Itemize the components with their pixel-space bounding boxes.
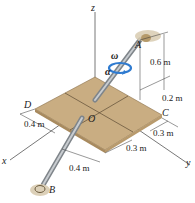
point-label-b: B bbox=[49, 184, 55, 195]
omega-label: ω bbox=[111, 50, 118, 61]
point-label-a: A bbox=[134, 39, 142, 50]
point-label-d: D bbox=[23, 99, 32, 110]
support-a-bearing-icon bbox=[141, 34, 151, 42]
dim-label-c-side: 0.3 m bbox=[153, 128, 174, 138]
diagram-canvas: z x y A B C D O ω α 0.6 m 0.2 m 0.3 m 0.… bbox=[0, 0, 195, 203]
dim-line-offset bbox=[140, 76, 170, 90]
dim-label-a-height: 0.6 m bbox=[150, 57, 171, 67]
dim-label-a-offset: 0.2 m bbox=[162, 93, 183, 103]
alpha-label: α bbox=[105, 66, 111, 77]
dim-label-b-side: 0.4 m bbox=[69, 163, 90, 173]
dim-line-b bbox=[62, 149, 100, 162]
axis-label-y: y bbox=[185, 157, 191, 168]
dim-line-c bbox=[162, 118, 178, 127]
dim-label-plate-y: 0.3 m bbox=[126, 143, 147, 153]
dim-label-d-side: 0.4 m bbox=[24, 119, 45, 129]
axis-label-z: z bbox=[90, 2, 95, 13]
point-label-c: C bbox=[162, 107, 169, 118]
axis-label-x: x bbox=[1, 155, 7, 166]
point-label-o: O bbox=[88, 113, 95, 124]
